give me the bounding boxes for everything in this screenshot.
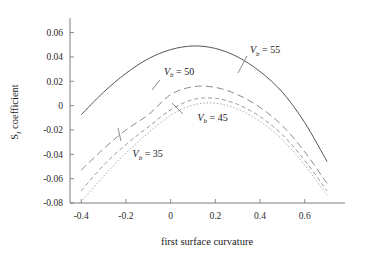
svg-text:SI coefficient: SI coefficient	[9, 84, 23, 140]
annotation-lbl50: Vb = 50	[164, 66, 194, 80]
x-tick-marks	[81, 199, 305, 203]
annotation-eq: = 45	[207, 112, 228, 123]
annotation-eq: = 50	[174, 66, 195, 77]
y-tick-label: 0	[58, 101, 63, 111]
leader-line-45	[172, 103, 183, 114]
x-tick-label: -0.2	[118, 211, 133, 221]
annotation-eq: = 55	[260, 44, 281, 55]
y-tick-label: 0.04	[46, 52, 63, 62]
x-tick-label: 0	[168, 211, 173, 221]
curve-45	[81, 98, 327, 191]
curve-55	[81, 46, 327, 162]
leader-line-55	[238, 56, 247, 73]
y-tick-labels: 0.060.040.020-0.02-0.04-0.06-0.08	[43, 28, 63, 208]
x-tick-label: 0.2	[209, 211, 221, 221]
x-tick-label: 0.6	[299, 211, 311, 221]
y-tick-label: 0.06	[46, 28, 63, 38]
curve-50	[81, 86, 327, 183]
x-tick-label: -0.4	[74, 211, 89, 221]
x-tick-labels: -0.4-0.200.20.40.6	[74, 211, 311, 221]
figure-container: 0.060.040.020-0.02-0.04-0.06-0.08 -0.4-0…	[0, 0, 367, 263]
leader-line-35	[118, 128, 121, 141]
y-tick-label: -0.04	[43, 150, 63, 160]
x-axis-title: first surface curvature	[161, 236, 253, 247]
y-tick-label: -0.08	[43, 198, 63, 208]
y-tick-label: 0.02	[46, 77, 63, 87]
annotation-lbl45: Vb = 45	[197, 112, 227, 126]
x-tick-label: 0.4	[254, 211, 266, 221]
line-chart: 0.060.040.020-0.02-0.04-0.06-0.08 -0.4-0…	[0, 0, 367, 263]
y-axis-title-rest: coefficient	[9, 84, 20, 131]
y-tick-label: -0.06	[43, 174, 63, 184]
y-tick-marks	[70, 33, 74, 203]
annotation-lbl35: Vb = 35	[133, 148, 163, 162]
curve-annotations: Vb = 55Vb = 50Vb = 45Vb = 35	[133, 44, 281, 162]
y-tick-label: -0.02	[43, 125, 63, 135]
annotation-eq: = 35	[142, 148, 163, 159]
annotation-lbl55: Vb = 55	[250, 44, 280, 58]
axis-lines	[70, 18, 345, 203]
y-axis-title: SI coefficient	[9, 84, 23, 140]
leader-line-50	[152, 80, 160, 90]
